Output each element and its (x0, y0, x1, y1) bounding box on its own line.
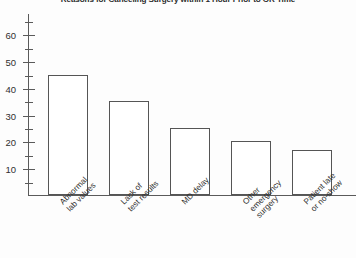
y-tick-label: 10 (5, 164, 16, 175)
y-tick-label: 50 (5, 57, 16, 68)
y-tick-major (23, 62, 35, 63)
y-tick-label: 20 (5, 137, 16, 148)
chart-title: Reasons for Canceling Surgery within 1 H… (0, 0, 356, 4)
y-tick-major (23, 169, 35, 170)
y-tick-minor (25, 49, 33, 50)
y-tick-minor (25, 76, 33, 77)
y-tick-major (23, 142, 35, 143)
plot-area: 102030405060 (28, 14, 356, 196)
y-tick-minor (25, 22, 33, 23)
y-tick-major (23, 35, 35, 36)
y-tick-minor (25, 129, 33, 130)
y-tick-label: 60 (5, 30, 16, 41)
y-tick-minor (25, 183, 33, 184)
y-tick-major (23, 89, 35, 90)
y-tick-minor (25, 156, 33, 157)
y-tick-label: 40 (5, 83, 16, 94)
y-tick-label: 30 (5, 110, 16, 121)
y-tick-major (23, 116, 35, 117)
chart-figure: Reasons for Canceling Surgery within 1 H… (0, 0, 356, 258)
y-tick-minor (25, 102, 33, 103)
